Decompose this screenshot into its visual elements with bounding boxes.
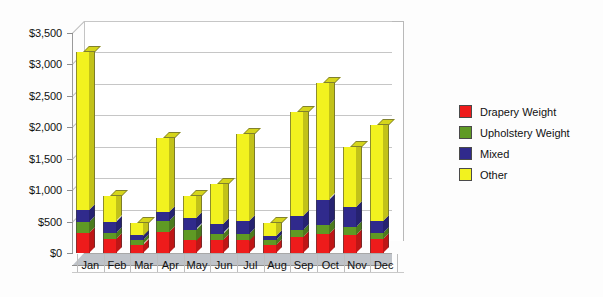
bar-segment[interactable] <box>236 240 250 253</box>
bar-segment[interactable] <box>263 240 277 245</box>
bar-segment[interactable] <box>156 221 170 232</box>
bar-segment[interactable] <box>236 134 250 221</box>
x-axis-tick-label: Nov <box>347 259 367 271</box>
bar-segment[interactable] <box>130 245 144 253</box>
bar-stack[interactable] <box>103 33 117 253</box>
x-axis-tick-label: Dec <box>374 259 394 271</box>
bar-segment[interactable] <box>316 234 330 253</box>
plot-area <box>72 33 392 253</box>
bar-segment[interactable] <box>103 222 117 233</box>
bar-stack[interactable] <box>343 33 357 253</box>
y-axis-tick-label: $3,000 <box>29 58 62 70</box>
bar-segment[interactable] <box>130 240 144 244</box>
legend-color-swatch <box>459 168 472 181</box>
legend-color-swatch <box>459 126 472 139</box>
bar-stack[interactable] <box>210 33 224 253</box>
x-axis-separator <box>397 254 398 272</box>
bar-stack[interactable] <box>316 33 330 253</box>
y-axis-labels: $0$500$1,000$1,500$2,000$2,500$3,000$3,5… <box>0 0 66 297</box>
bar-segment[interactable] <box>316 83 330 199</box>
bar-segment[interactable] <box>263 245 277 253</box>
x-axis-tick-label: Aug <box>267 259 287 271</box>
y-axis-tick-mark <box>67 33 73 34</box>
bar-segment[interactable] <box>343 227 357 235</box>
bar-segment[interactable] <box>183 218 197 229</box>
bar-stack[interactable] <box>263 33 277 253</box>
y-axis-tick-mark <box>67 159 73 160</box>
y-axis-tick-label: $2,000 <box>29 121 62 133</box>
bar-segment[interactable] <box>130 235 144 240</box>
bar-segment[interactable] <box>370 233 384 239</box>
bar-segment[interactable] <box>263 236 277 240</box>
bar-stack[interactable] <box>236 33 250 253</box>
bar-segment[interactable] <box>76 210 90 222</box>
bar-segment[interactable] <box>370 125 384 221</box>
y-axis-tick-mark <box>67 222 73 223</box>
bar-segment[interactable] <box>316 200 330 225</box>
bar-segment[interactable] <box>103 239 117 253</box>
x-axis-separator <box>210 254 211 272</box>
bar-segment[interactable] <box>156 138 170 212</box>
bar-stack[interactable] <box>290 33 304 253</box>
bar-segment[interactable] <box>343 147 357 207</box>
bar-segment[interactable] <box>103 196 117 221</box>
x-axis-separator <box>317 254 318 272</box>
bar-segment[interactable] <box>236 234 250 241</box>
legend-item[interactable]: Mixed <box>459 143 599 164</box>
bar-segment[interactable] <box>236 221 250 234</box>
bar-segment[interactable] <box>343 235 357 253</box>
bar-segment[interactable] <box>183 240 197 253</box>
bar-segment[interactable] <box>76 222 90 233</box>
bar-stack[interactable] <box>156 33 170 253</box>
bar-segment-side <box>89 46 95 210</box>
y-axis-tick-mark <box>67 64 73 65</box>
x-axis-tick-label: Jul <box>243 259 257 271</box>
bar-segment[interactable] <box>210 184 224 224</box>
bar-segment[interactable] <box>156 232 170 253</box>
y-axis-tick-label: $2,500 <box>29 90 62 102</box>
bar-segment[interactable] <box>316 225 330 234</box>
bar-segment[interactable] <box>76 52 90 210</box>
y-axis-tick-label: $3,500 <box>29 27 62 39</box>
axis-depth-line <box>72 21 85 34</box>
bar-segment[interactable] <box>290 112 304 216</box>
bar-segment[interactable] <box>370 221 384 233</box>
bar-segment[interactable] <box>156 212 170 221</box>
bar-segment[interactable] <box>290 216 304 230</box>
x-axis-separator <box>77 254 78 272</box>
legend-item[interactable]: Upholstery Weight <box>459 122 599 143</box>
legend-item-label: Drapery Weight <box>480 106 556 118</box>
bar-segment[interactable] <box>370 239 384 253</box>
x-axis-rule <box>72 272 404 273</box>
bar-segment[interactable] <box>103 233 117 239</box>
bar-stack[interactable] <box>76 33 90 253</box>
x-axis-tick-label: Jan <box>81 259 99 271</box>
bar-segment-side <box>356 141 362 207</box>
bar-segment[interactable] <box>183 196 197 218</box>
bar-stack[interactable] <box>130 33 144 253</box>
bar-segment[interactable] <box>130 223 144 236</box>
bar-segment[interactable] <box>76 233 90 253</box>
legend-item[interactable]: Other <box>459 164 599 185</box>
x-axis-separator <box>184 254 185 272</box>
legend-item[interactable]: Drapery Weight <box>459 101 599 122</box>
bar-segment[interactable] <box>263 223 277 236</box>
bar-segment[interactable] <box>183 230 197 241</box>
x-axis-separator <box>370 254 371 272</box>
bar-segment[interactable] <box>210 240 224 253</box>
bar-segment[interactable] <box>210 224 224 233</box>
legend-item-label: Other <box>480 169 508 181</box>
bar-segment[interactable] <box>290 230 304 237</box>
y-axis-tick-mark <box>67 96 73 97</box>
bar-stack[interactable] <box>183 33 197 253</box>
legend-color-swatch <box>459 105 472 118</box>
x-axis-tick-label: May <box>187 259 208 271</box>
bar-stack[interactable] <box>370 33 384 253</box>
bar-segment-side <box>329 77 335 199</box>
bar-segment[interactable] <box>290 237 304 253</box>
x-axis-separator <box>130 254 131 272</box>
y-axis-tick-mark <box>67 190 73 191</box>
bar-segment[interactable] <box>343 207 357 227</box>
bar-segment[interactable] <box>210 234 224 240</box>
bar-segment-side <box>223 178 229 224</box>
